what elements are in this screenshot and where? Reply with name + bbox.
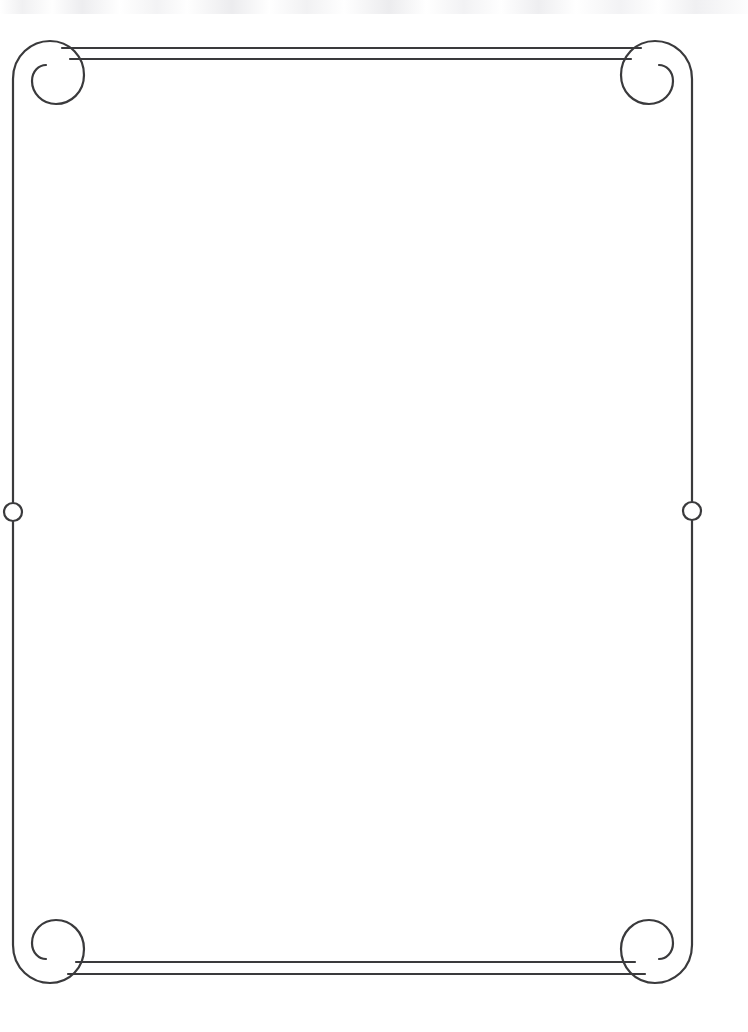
bottom-left-scroll-icon [13, 920, 84, 983]
top-left-scroll-icon [13, 41, 84, 104]
page-canvas [0, 0, 748, 1032]
left-side-circle-ornament [4, 503, 22, 521]
page-content-area[interactable] [80, 80, 668, 940]
right-side-circle-ornament [683, 502, 701, 520]
